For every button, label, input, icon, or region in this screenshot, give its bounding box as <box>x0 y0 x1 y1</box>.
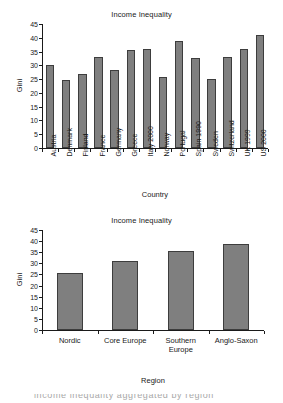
y-tick-mark <box>39 79 42 80</box>
plot-area-country: Gini 051015202530354045 AustriaDenmarkFi… <box>0 20 283 206</box>
x-category-label: Core Europe <box>98 336 154 345</box>
y-tick-mark <box>39 134 42 135</box>
y-tick-label: 5 <box>34 131 38 138</box>
y-tick-label: 45 <box>30 227 38 234</box>
y-tick-label: 10 <box>30 304 38 311</box>
x-tick-mark <box>98 331 99 334</box>
y-tick-mark <box>39 65 42 66</box>
chart-title-region: Income Inequality <box>0 216 283 226</box>
x-tick-mark <box>42 331 43 334</box>
chart-figure-region: Income Inequality Gini 05101520253035404… <box>0 210 283 392</box>
bar <box>112 261 138 330</box>
x-tick-mark <box>139 149 140 152</box>
y-tick-mark <box>39 241 42 242</box>
y-tick-label: 35 <box>30 48 38 55</box>
x-category-label-line: Anglo-Saxon <box>215 336 258 345</box>
x-tick-mark <box>123 149 124 152</box>
bar <box>57 273 83 330</box>
x-tick-mark <box>268 149 269 152</box>
y-tick-mark <box>39 230 42 231</box>
y-tick-label: 15 <box>30 103 38 110</box>
x-tick-mark <box>58 149 59 152</box>
y-tick-label: 30 <box>30 260 38 267</box>
y-tick-label: 25 <box>30 271 38 278</box>
y-axis-ticks-country: 051015202530354045 <box>22 24 38 148</box>
y-tick-label: 40 <box>30 238 38 245</box>
bar <box>168 251 194 330</box>
x-tick-mark <box>187 149 188 152</box>
y-tick-mark <box>39 286 42 287</box>
y-tick-mark <box>39 274 42 275</box>
cropped-caption-text: income inequality aggregated by region <box>34 394 214 400</box>
y-tick-label: 30 <box>30 62 38 69</box>
x-category-label-line: Southern <box>166 336 196 345</box>
x-tick-mark <box>203 149 204 152</box>
y-tick-label: 20 <box>30 89 38 96</box>
y-tick-label: 15 <box>30 293 38 300</box>
x-category-label: SouthernEurope <box>153 336 209 354</box>
chart-figure-country: Income Inequality Gini 05101520253035404… <box>0 0 283 210</box>
y-tick-label: 25 <box>30 76 38 83</box>
chart-title-country: Income Inequality <box>0 10 283 20</box>
y-tick-mark <box>39 319 42 320</box>
x-tick-mark <box>220 149 221 152</box>
plot-area-region: Gini 051015202530354045 NordicCore Europ… <box>0 226 283 358</box>
y-tick-label: 40 <box>30 34 38 41</box>
y-tick-mark <box>39 107 42 108</box>
y-tick-label: 0 <box>34 327 38 334</box>
y-tick-mark <box>39 38 42 39</box>
x-tick-mark <box>264 331 265 334</box>
x-category-label-line: Nordic <box>59 336 81 345</box>
y-tick-mark <box>39 308 42 309</box>
y-tick-mark <box>39 252 42 253</box>
x-tick-mark <box>209 331 210 334</box>
x-tick-mark <box>236 149 237 152</box>
x-tick-mark <box>171 149 172 152</box>
x-tick-mark <box>74 149 75 152</box>
y-tick-label: 0 <box>34 145 38 152</box>
y-tick-mark <box>39 120 42 121</box>
y-tick-label: 45 <box>30 21 38 28</box>
x-category-label-line: Europe <box>169 345 193 354</box>
x-tick-mark <box>107 149 108 152</box>
y-tick-label: 10 <box>30 117 38 124</box>
y-tick-mark <box>39 93 42 94</box>
x-tick-mark <box>90 149 91 152</box>
y-tick-mark <box>39 263 42 264</box>
bar <box>223 244 249 330</box>
y-axis-line <box>42 24 43 149</box>
y-axis-line <box>42 230 43 331</box>
x-tick-mark <box>42 149 43 152</box>
y-tick-mark <box>39 52 42 53</box>
x-tick-mark <box>153 331 154 334</box>
x-category-label: Nordic <box>42 336 98 345</box>
y-axis-ticks-region: 051015202530354045 <box>22 230 38 330</box>
y-tick-mark <box>39 24 42 25</box>
x-tick-mark <box>155 149 156 152</box>
x-category-label-line: Core Europe <box>104 336 147 345</box>
x-axis-label-region: Region <box>42 376 264 385</box>
x-category-label: Anglo-Saxon <box>209 336 265 345</box>
bar-series-region <box>42 230 264 330</box>
y-tick-label: 5 <box>34 315 38 322</box>
y-tick-label: 20 <box>30 282 38 289</box>
x-axis-label-country: Country <box>42 190 268 199</box>
y-tick-mark <box>39 297 42 298</box>
page-bottom-cropped-line: income inequality aggregated by region <box>0 394 283 403</box>
x-tick-mark <box>252 149 253 152</box>
y-tick-label: 35 <box>30 249 38 256</box>
